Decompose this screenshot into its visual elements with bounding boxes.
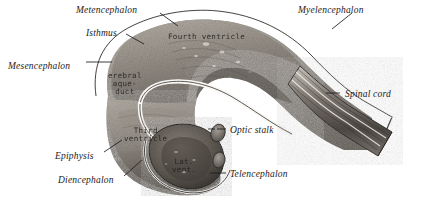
label-metencephalon: Metencephalon [76, 6, 137, 16]
label-fourth-ventricle: Fourth ventricle [168, 33, 245, 42]
label-optic-stalk: Optic stalk [230, 126, 274, 136]
figure-embryonic-brain-vesicles: Metencephalon Myelencephalon Isthmus Mes… [0, 0, 428, 205]
label-epiphysis: Epiphysis [55, 152, 94, 162]
third-ventricle-line-2: ventricle [124, 135, 167, 143]
label-spinal-cord: Spinal cord [345, 90, 391, 100]
label-cerebral-aqueduct: erebral aque- duct [108, 72, 142, 96]
label-telencephalon: Telencephalon [230, 170, 288, 180]
cerebral-aqueduct-line-3: duct [108, 88, 142, 96]
label-isthmus: Isthmus [86, 29, 117, 39]
label-myelencephalon: Myelencephalon [298, 6, 364, 16]
label-lateral-ventricle: Lat. vent. [172, 158, 196, 174]
label-third-ventricle: Third ventricle [124, 127, 167, 143]
label-mesencephalon: Mesencephalon [8, 62, 70, 72]
label-diencephalon: Diencephalon [58, 176, 114, 186]
lateral-ventricle-line-2: vent. [172, 166, 196, 174]
